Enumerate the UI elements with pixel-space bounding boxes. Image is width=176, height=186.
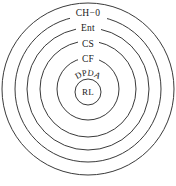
figure-canvas: CH−0 Ent CS CF DPDA RL [0,0,176,186]
concentric-hierarchy-figure: CH−0 Ent CS CF DPDA RL [0,0,176,186]
ring-label-ch0: CH−0 [76,8,101,18]
ring-label-cs: CS [82,39,94,49]
core-label-rl: RL [82,87,94,97]
ring-label-cf: CF [82,54,94,64]
ring-label-ent: Ent [81,23,95,33]
